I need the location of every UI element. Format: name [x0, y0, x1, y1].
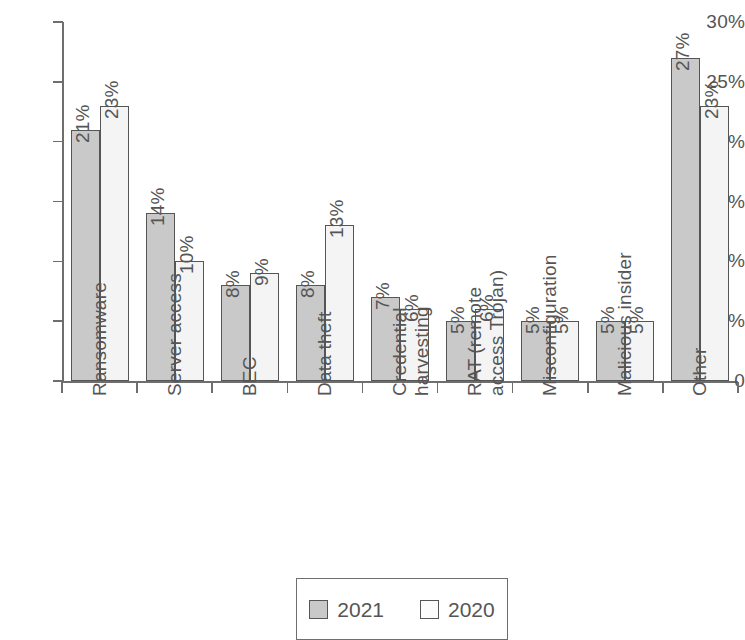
x-tick-mark [287, 382, 289, 393]
bar-value-label: 7% [373, 282, 392, 310]
legend-entry-2020: 2020 [420, 599, 495, 620]
bar-value-label: 8% [298, 270, 317, 298]
y-tick-mark [53, 141, 63, 143]
category-label: Data theft [314, 312, 335, 396]
category-label-line: Server access [164, 273, 185, 396]
category-label: Other [689, 347, 710, 396]
x-tick-mark [211, 382, 213, 393]
bar-value-label: 14% [148, 188, 167, 227]
category-label-line: Misconfiguration [539, 254, 560, 396]
bar-value-label: 27% [673, 32, 692, 71]
category-label-line: harvesting [411, 306, 432, 396]
y-tick-label: 30% [697, 12, 745, 31]
category-label-line: Ransomware [89, 282, 110, 396]
category-label: Credentialharvesting [389, 307, 410, 396]
category-label: Server access [164, 273, 185, 396]
gray-swatch-icon [309, 600, 328, 619]
category-label-line: Other [689, 347, 710, 396]
category-label: Malicious insider [614, 252, 635, 396]
bar-value-label: 8% [223, 270, 242, 298]
category-label: Misconfiguration [539, 254, 560, 396]
bar-2020-other [700, 106, 729, 381]
legend-entry-2021: 2021 [309, 599, 384, 620]
category-label-line: Data theft [314, 312, 335, 396]
chart-legend: 2021 2020 [296, 578, 508, 640]
category-label-line: access Trojan) [486, 270, 507, 396]
x-tick-mark [437, 382, 439, 393]
bar-value-label: 21% [73, 104, 92, 143]
category-label-line: Credential [389, 307, 410, 396]
y-tick-mark [53, 21, 63, 23]
x-tick-mark [512, 382, 514, 393]
y-tick-mark [53, 201, 63, 203]
legend-label-2021: 2021 [337, 599, 384, 620]
bar-value-label: 23% [702, 80, 721, 119]
y-tick-mark [53, 261, 63, 263]
y-tick-mark [53, 81, 63, 83]
bar-value-label: 13% [327, 200, 346, 239]
category-label-line: RAT (remote [464, 287, 485, 396]
x-tick-mark [587, 382, 589, 393]
white-swatch-icon [420, 600, 439, 619]
bar-value-label: 23% [102, 80, 121, 119]
x-tick-mark [61, 382, 63, 393]
category-label: RAT (remoteaccess Trojan) [464, 287, 485, 396]
bar-value-label: 10% [177, 236, 196, 275]
bar-value-label: 9% [252, 258, 271, 286]
category-label: Ransomware [89, 282, 110, 396]
x-tick-mark [662, 382, 664, 393]
x-tick-mark [136, 382, 138, 393]
category-label: BEC [239, 356, 260, 396]
bar-2021-other [671, 58, 700, 381]
y-tick-mark [53, 320, 63, 322]
x-tick-mark [362, 382, 364, 393]
legend-label-2020: 2020 [448, 599, 495, 620]
x-tick-mark [737, 382, 739, 393]
category-label-line: BEC [239, 356, 260, 396]
category-label-line: Malicious insider [614, 252, 635, 396]
